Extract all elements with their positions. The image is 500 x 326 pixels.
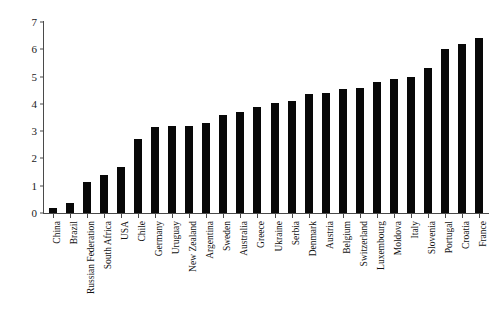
bar-slot bbox=[95, 22, 112, 213]
bar-chart: 01234567 ChinaBrazilRussian FederationSo… bbox=[0, 0, 500, 326]
bar bbox=[100, 175, 108, 213]
bar-slot bbox=[44, 22, 61, 213]
y-tick-label: 6 bbox=[32, 44, 38, 55]
y-tick-mark bbox=[40, 49, 44, 50]
x-tick-mark bbox=[360, 214, 361, 218]
x-tick-mark bbox=[292, 214, 293, 218]
bars-container bbox=[44, 22, 488, 213]
x-tick-label: Italy bbox=[411, 221, 421, 238]
y-tick-mark bbox=[40, 131, 44, 132]
x-tick-label: Portugal bbox=[445, 221, 455, 253]
bar bbox=[49, 208, 57, 213]
bar-slot bbox=[283, 22, 300, 213]
y-tick-mark bbox=[40, 76, 44, 77]
y-tick-label: 0 bbox=[32, 208, 38, 219]
bar-slot bbox=[249, 22, 266, 213]
bar-slot bbox=[386, 22, 403, 213]
x-tick-label: Austria bbox=[326, 221, 336, 249]
x-tick-mark bbox=[70, 214, 71, 218]
bar-slot bbox=[368, 22, 385, 213]
x-tick-mark bbox=[479, 214, 480, 218]
bar bbox=[219, 115, 227, 213]
x-tick-label: Moldova bbox=[394, 221, 404, 255]
bar-slot bbox=[266, 22, 283, 213]
x-tick-label: Slovenia bbox=[428, 221, 438, 254]
x-tick-mark bbox=[377, 214, 378, 218]
bar-slot bbox=[112, 22, 129, 213]
x-tick-mark bbox=[138, 214, 139, 218]
bar-slot bbox=[232, 22, 249, 213]
y-tick-label: 1 bbox=[32, 180, 38, 191]
bar bbox=[151, 127, 159, 213]
x-tick-mark bbox=[411, 214, 412, 218]
x-tick-label: Chile bbox=[138, 221, 148, 242]
bar bbox=[288, 101, 296, 213]
bar bbox=[356, 88, 364, 214]
x-tick-label: Argentina bbox=[206, 221, 216, 259]
x-tick-mark bbox=[257, 214, 258, 218]
y-tick-mark bbox=[40, 103, 44, 104]
x-tick-label: Croatia bbox=[462, 221, 472, 249]
x-axis-ticks: ChinaBrazilRussian FederationSouth Afric… bbox=[44, 214, 488, 324]
x-tick-mark bbox=[53, 214, 54, 218]
y-tick-label: 4 bbox=[32, 98, 38, 109]
bar bbox=[407, 77, 415, 213]
x-tick-label: Greece bbox=[257, 221, 267, 248]
x-tick-label: USA bbox=[121, 221, 131, 240]
x-tick-mark bbox=[206, 214, 207, 218]
y-tick-mark bbox=[40, 185, 44, 186]
bar-slot bbox=[198, 22, 215, 213]
x-tick-label: Sweden bbox=[223, 221, 233, 251]
bar-slot bbox=[181, 22, 198, 213]
bar-slot bbox=[146, 22, 163, 213]
y-tick-mark bbox=[40, 158, 44, 159]
y-tick-label: 7 bbox=[32, 17, 38, 28]
x-tick-label: Denmark bbox=[309, 221, 319, 256]
bar bbox=[305, 94, 313, 213]
x-tick-mark bbox=[445, 214, 446, 218]
x-tick-label: New Zealand bbox=[189, 221, 199, 272]
bar-slot bbox=[454, 22, 471, 213]
bar-slot bbox=[129, 22, 146, 213]
bar-slot bbox=[61, 22, 78, 213]
bar-slot bbox=[164, 22, 181, 213]
y-tick-label: 3 bbox=[32, 126, 38, 137]
x-tick-mark bbox=[121, 214, 122, 218]
x-tick-mark bbox=[462, 214, 463, 218]
x-tick-mark bbox=[223, 214, 224, 218]
bar bbox=[83, 182, 91, 213]
bar bbox=[475, 38, 483, 213]
x-tick-label: Switzerland bbox=[360, 221, 370, 266]
bar bbox=[271, 103, 279, 214]
bar-slot bbox=[351, 22, 368, 213]
x-tick-mark bbox=[189, 214, 190, 218]
bar bbox=[339, 89, 347, 213]
x-tick-mark bbox=[155, 214, 156, 218]
x-tick-label: Belgium bbox=[343, 221, 353, 254]
bar-slot bbox=[334, 22, 351, 213]
bar bbox=[424, 68, 432, 213]
x-tick-label: Luxembourg bbox=[377, 221, 387, 270]
bar bbox=[458, 44, 466, 213]
x-tick-label: France bbox=[479, 221, 489, 247]
x-tick-mark bbox=[104, 214, 105, 218]
bar-slot bbox=[215, 22, 232, 213]
x-tick-label: Uruguay bbox=[172, 221, 182, 254]
x-tick-mark bbox=[309, 214, 310, 218]
bar-slot bbox=[437, 22, 454, 213]
bar bbox=[373, 82, 381, 213]
x-tick-mark bbox=[275, 214, 276, 218]
plot-area: 01234567 bbox=[44, 22, 488, 213]
bar-slot bbox=[471, 22, 488, 213]
x-tick-label: Serbia bbox=[292, 221, 302, 245]
x-tick-mark bbox=[87, 214, 88, 218]
x-tick-label: China bbox=[53, 221, 63, 244]
x-tick-label: Russian Federation bbox=[87, 221, 97, 294]
bar bbox=[134, 139, 142, 213]
bar-slot bbox=[300, 22, 317, 213]
bar bbox=[236, 112, 244, 213]
bar-slot bbox=[78, 22, 95, 213]
x-tick-mark bbox=[428, 214, 429, 218]
bar-slot bbox=[403, 22, 420, 213]
bar bbox=[253, 107, 261, 213]
